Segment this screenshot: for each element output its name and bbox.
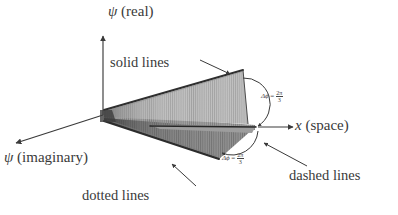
leader-dotted-lines [172, 164, 196, 186]
angle-upper-symbol: Δϕ [261, 93, 269, 100]
angle-lower-symbol: Δϕ [222, 155, 230, 162]
callout-solid-lines-text: solid lines [110, 54, 169, 70]
callout-dotted-lines-text: dotted lines [82, 187, 149, 203]
psi-real-qualifier: (real) [121, 3, 153, 19]
blade-dashed-edge [150, 126, 256, 127]
callout-solid-lines: solid lines [110, 55, 169, 70]
angle-upper-equals: = [270, 93, 274, 100]
x-space-qualifier: (space) [305, 117, 348, 133]
callout-dashed-lines: dashed lines [289, 168, 360, 183]
psi-real-symbol: ψ [108, 3, 117, 19]
leader-solid-lines [200, 60, 230, 74]
psi-imaginary-axis-line [16, 115, 103, 143]
helicoid-surface [100, 70, 256, 159]
callout-dotted-lines: dotted lines [82, 188, 149, 203]
psi-real-axis-label: ψ (real) [108, 4, 154, 19]
leader-dashed-lines [264, 143, 307, 166]
angle-upper-fraction: 2π 3 [276, 90, 283, 104]
x-space-symbol: x [295, 117, 302, 133]
angle-lower-equals: = [231, 155, 235, 162]
psi-imaginary-symbol: ψ [4, 149, 13, 165]
figure-canvas: ψ (real) ψ (imaginary) x (space) solid l… [0, 0, 398, 215]
angle-lower-denominator: 3 [237, 159, 244, 165]
psi-imaginary-qualifier: (imaginary) [17, 149, 88, 165]
callout-dashed-lines-text: dashed lines [289, 167, 360, 183]
angle-upper-denominator: 3 [276, 97, 283, 103]
angle-label-upper: Δϕ = 2π 3 [261, 90, 283, 104]
angle-lower-fraction: 2π 3 [237, 152, 244, 166]
x-space-axis-label: x (space) [295, 118, 349, 133]
blade-upper-shade [104, 71, 248, 124]
angle-label-lower: Δϕ = 2π 3 [222, 152, 244, 166]
psi-imaginary-axis-label: ψ (imaginary) [4, 150, 88, 165]
